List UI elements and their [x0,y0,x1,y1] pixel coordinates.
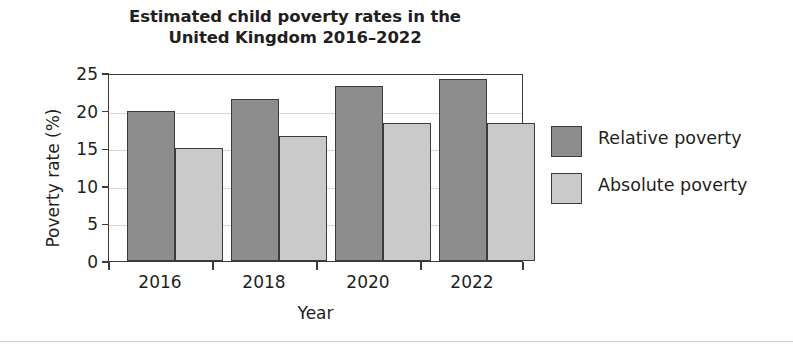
y-tick-label-10: 10 [56,177,98,197]
bar-relative-2016 [127,111,175,261]
x-tick-label-2018: 2018 [219,272,309,292]
y-tick-label-25: 25 [56,64,98,84]
bar-absolute-2022 [487,123,535,261]
x-tick-mark-1 [212,262,214,270]
bar-absolute-2018 [279,136,327,261]
x-tick-mark-start [108,262,110,270]
x-axis-title: Year [108,303,523,323]
y-tick-label-5: 5 [56,214,98,234]
legend-label-absolute-poverty: Absolute poverty [598,175,747,195]
legend-label-relative-poverty: Relative poverty [598,128,742,148]
chart-figure: Estimated child poverty rates in the Uni… [0,0,793,350]
bar-absolute-2016 [175,148,223,261]
x-tick-mark-3 [420,262,422,270]
bar-relative-2022 [439,79,487,261]
plot-area [108,74,523,262]
y-tick-label-15: 15 [56,139,98,159]
y-tick-label-20: 20 [56,102,98,122]
y-tick-label-0: 0 [56,252,98,272]
x-tick-mark-end [522,262,524,270]
footer-divider [0,341,793,342]
chart-title: Estimated child poverty rates in the Uni… [60,6,530,48]
x-tick-label-2022: 2022 [427,272,517,292]
bar-relative-2020 [335,86,383,261]
x-tick-mark-2 [316,262,318,270]
bar-relative-2018 [231,99,279,261]
x-tick-label-2020: 2020 [323,272,413,292]
legend-swatch-absolute-poverty [551,173,582,204]
bar-absolute-2020 [383,123,431,261]
x-tick-label-2016: 2016 [115,272,205,292]
legend-swatch-relative-poverty [551,126,582,157]
